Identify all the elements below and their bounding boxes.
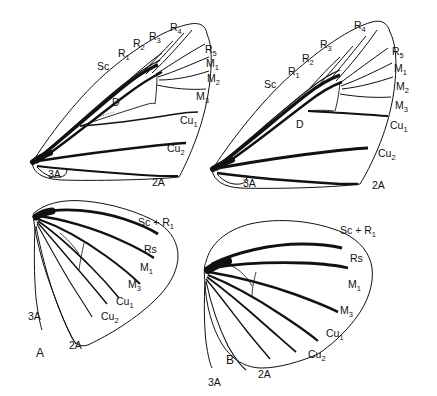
label-Sc: Sc [97, 60, 109, 72]
panel-hindwing-b: Sc + R1 Rs M1 M3 Cu1 Cu2 2A 3A B [204, 221, 376, 388]
label-2A: 2A [152, 176, 165, 188]
label-3A: 3A [208, 376, 221, 388]
label-M3: M3 [340, 304, 353, 319]
vein-R-stem [215, 75, 340, 168]
label-M3: M3 [128, 278, 141, 293]
wing-margin-inner [204, 262, 318, 368]
label-ScR1: Sc + R1 [340, 224, 376, 239]
label-Cu1: Cu1 [390, 119, 408, 134]
label-2A: 2A [69, 339, 82, 351]
label-ScR1: Sc + R1 [138, 216, 174, 231]
vein-M3 [340, 94, 391, 97]
panel-forewing-top-right: Sc R1 R2 R3 R4 R5 M1 M2 M3 Cu1 Cu2 2 [212, 19, 409, 191]
label-D: D [296, 118, 304, 130]
label-M3: M3 [395, 99, 408, 114]
label-R1: R1 [288, 65, 300, 80]
vein-Cu2 [206, 279, 270, 359]
label-R2: R2 [133, 37, 145, 52]
vein-R5 [156, 44, 205, 74]
discal-cell-crossvein [252, 272, 256, 296]
vein-M2 [159, 71, 209, 80]
panel-hindwing-a: Sc + R1 Rs M1 M3 Cu1 Cu2 2A 3A A [28, 201, 178, 360]
label-Cu1: Cu1 [180, 114, 198, 129]
vein-R-stem-2 [36, 72, 162, 163]
label-3A: 3A [243, 177, 256, 189]
vein-2A [217, 173, 358, 184]
label-3A: 3A [48, 168, 61, 180]
label-Cu1: Cu1 [116, 295, 134, 310]
label-R1: R1 [118, 47, 130, 62]
wing-margin-costal [206, 221, 344, 262]
label-R4: R4 [354, 19, 366, 34]
label-Cu1: Cu1 [326, 327, 344, 342]
label-M1: M1 [348, 278, 361, 293]
panel-label-b: B [226, 353, 234, 367]
vein-M3 [38, 221, 119, 298]
label-2A: 2A [258, 368, 271, 380]
vein-R2 [320, 46, 353, 84]
label-Cu2: Cu2 [101, 310, 119, 325]
discal-cell-crossvein [155, 73, 157, 104]
vein-Cu2 [218, 148, 368, 168]
panel-label-a: A [36, 346, 44, 360]
label-M1: M1 [140, 261, 153, 276]
label-R3: R3 [149, 30, 161, 45]
vein-R3 [328, 36, 366, 82]
label-Rs: Rs [350, 252, 363, 264]
label-R3: R3 [320, 38, 332, 53]
label-Sc: Sc [264, 78, 276, 90]
panel-forewing-top-left: Sc R1 R2 R3 R4 R5 M1 M2 M3 Cu1 Cu2 2 [32, 21, 220, 188]
label-Rs: Rs [144, 243, 157, 255]
label-M2: M2 [396, 80, 409, 95]
label-R4: R4 [170, 21, 182, 36]
label-M1: M1 [206, 57, 219, 72]
vein-Cu1 [308, 111, 388, 116]
label-M3: M3 [196, 90, 209, 105]
label-3A: 3A [28, 310, 41, 322]
label-2A: 2A [372, 179, 385, 191]
label-D: D [112, 96, 120, 108]
vein-M3 [157, 85, 206, 89]
label-Cu2: Cu2 [378, 147, 396, 162]
discal-cell-crossvein [335, 82, 340, 111]
wing-venation-figure: Sc R1 R2 R3 R4 R5 M1 M2 M3 Cu1 Cu2 2 [0, 0, 437, 396]
label-R5: R5 [392, 45, 404, 60]
label-M2: M2 [207, 72, 220, 87]
